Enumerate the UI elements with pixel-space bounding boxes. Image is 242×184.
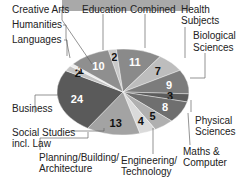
slice-value-label: 8 (162, 101, 168, 113)
label-bio-1: Biological (193, 30, 236, 41)
label-maths-1: Maths & (183, 146, 220, 157)
label-business: Business (12, 103, 53, 114)
slice-value-label: 7 (155, 65, 161, 77)
label-maths-2: Computer (183, 157, 227, 168)
slice-value-label: 10 (92, 60, 104, 72)
label-social-1: Social Studies (12, 127, 75, 138)
slice-value-label: 4 (138, 115, 145, 127)
label-education: Education (82, 4, 126, 15)
label-health-1: Health (181, 4, 210, 15)
label-eng-2: Technology (121, 166, 172, 177)
leader-line (188, 113, 190, 145)
label-creative-arts: Creative Arts (12, 4, 69, 15)
label-combined: Combined (130, 4, 176, 15)
leader-line (190, 53, 205, 78)
slice-value-label: 5 (150, 110, 156, 122)
label-bio-2: Sciences (193, 42, 234, 53)
label-social-2: incl. Law (12, 138, 51, 149)
label-planning-1: Planning/Building/ (39, 152, 119, 163)
label-health-2: Subjects (181, 15, 219, 26)
label-humanities: Humanities (12, 19, 62, 30)
slice-value-label: 9 (166, 79, 172, 91)
slice-value-label: 11 (129, 56, 141, 68)
label-planning-2: Architecture (39, 163, 92, 174)
label-phys-1: Physical (195, 115, 232, 126)
label-phys-2: Sciences (195, 126, 236, 137)
slice-value-label: 13 (110, 117, 122, 129)
label-eng-1: Engineering/ (121, 155, 177, 166)
slice-value-label: 24 (71, 93, 84, 105)
label-languages: Languages (12, 34, 62, 45)
